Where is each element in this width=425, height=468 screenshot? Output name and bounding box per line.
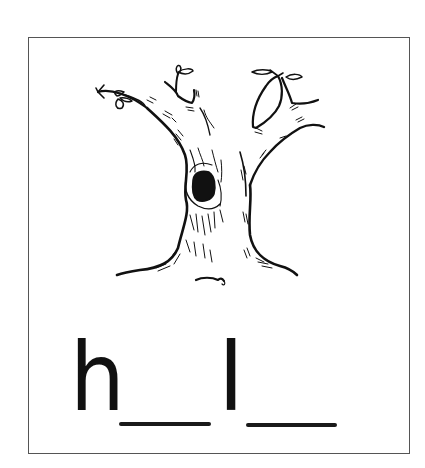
word-puzzle: h l (0, 0, 425, 468)
blank-line-1[interactable] (119, 422, 211, 426)
letter-l: l (218, 331, 244, 425)
blank-line-2[interactable] (246, 423, 337, 427)
letter-h: h (70, 331, 125, 425)
